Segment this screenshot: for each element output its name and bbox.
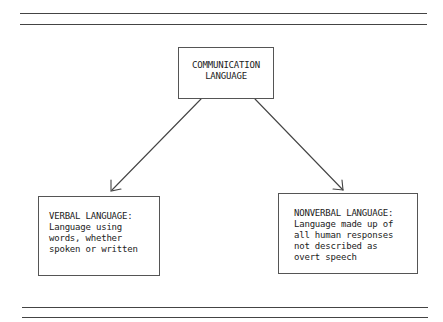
- verbal-language-box: VERBAL LANGUAGE: Language using words, w…: [38, 196, 160, 276]
- nonverbal-language-box: NONVERBAL LANGUAGE: Language made up of …: [278, 193, 418, 274]
- diagram-canvas: COMMUNICATION LANGUAGE VERBAL LANGUAGE: …: [0, 0, 443, 322]
- verbal-line-2: Language using: [49, 222, 159, 233]
- nonverbal-line-1: NONVERBAL LANGUAGE:: [294, 208, 417, 219]
- arrow-to-verbal: [112, 99, 201, 190]
- bottom-rule-2: [22, 317, 428, 318]
- nonverbal-line-2: Language made up of: [294, 219, 417, 230]
- nonverbal-line-5: overt speech: [294, 252, 417, 263]
- arrow-to-nonverbal: [255, 99, 343, 190]
- bottom-rule-1: [22, 307, 428, 308]
- root-line-1: COMMUNICATION: [179, 60, 273, 71]
- root-line-2: LANGUAGE: [179, 71, 273, 82]
- nonverbal-line-4: not described as: [294, 241, 417, 252]
- verbal-line-1: VERBAL LANGUAGE:: [49, 211, 159, 222]
- verbal-line-3: words, whether: [49, 233, 159, 244]
- nonverbal-line-3: all human responses: [294, 230, 417, 241]
- verbal-line-4: spoken or written: [49, 244, 159, 255]
- communication-language-box: COMMUNICATION LANGUAGE: [178, 47, 274, 99]
